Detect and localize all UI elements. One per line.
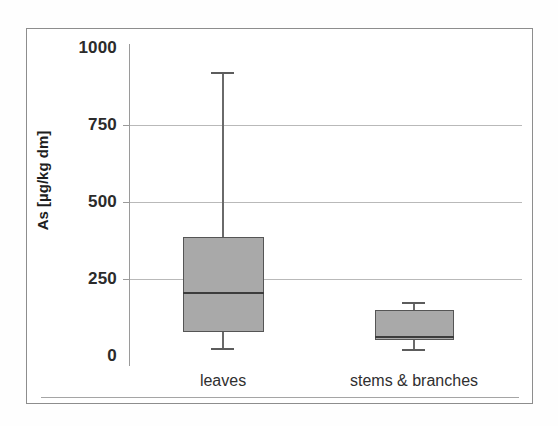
figure-canvas: 1000 750 500 250 0 As [µg/kg dm]	[0, 0, 558, 426]
plot-frame-border	[26, 28, 533, 404]
